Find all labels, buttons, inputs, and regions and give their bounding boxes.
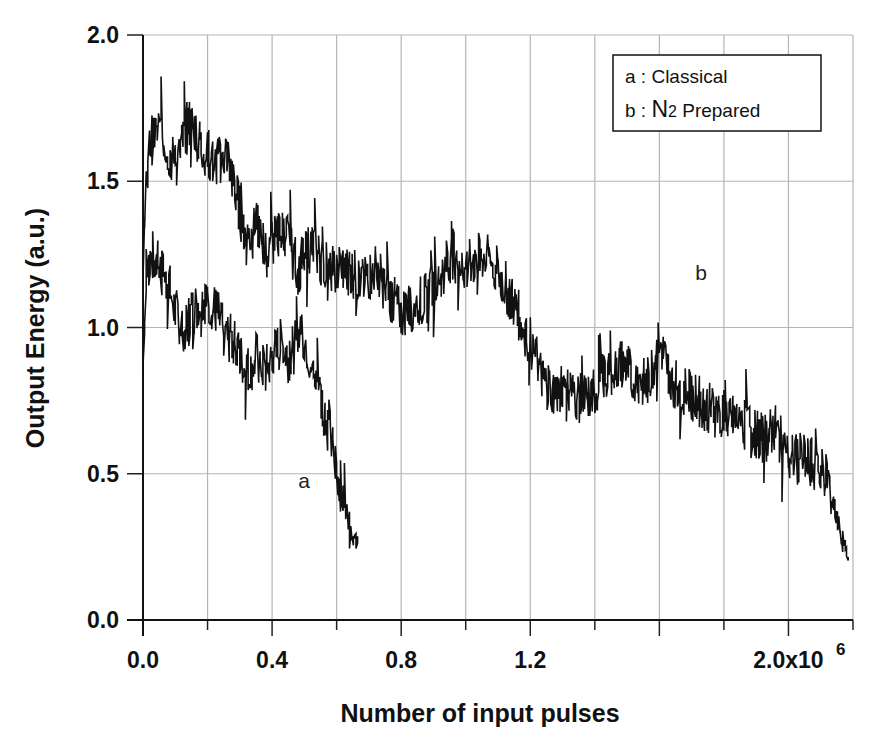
y-tick-label: 0.0 — [87, 607, 119, 633]
x-axis-title: Number of input pulses — [340, 699, 619, 727]
legend-item-a: a : Classical — [625, 66, 727, 87]
curve-label-b: b — [695, 261, 707, 284]
y-tick-label: 1.0 — [87, 315, 119, 341]
y-tick-label: 2.0 — [87, 22, 119, 48]
x-tick-label: 0.0 — [127, 647, 159, 673]
y-axis-title: Output Energy (a.u.) — [21, 208, 49, 448]
legend: a : Classical b : N2 Prepared — [613, 55, 821, 131]
x-tick-label: 0.8 — [385, 647, 417, 673]
legend-item-b: b : N2 Prepared — [625, 96, 760, 122]
y-tick-label: 1.5 — [87, 168, 119, 194]
y-tick-label: 0.5 — [87, 461, 119, 487]
chart: 0.00.40.81.22.0x100.00.51.01.52.0 Output… — [0, 0, 877, 747]
x-multiplier-exponent: 6 — [836, 640, 845, 659]
x-tick-label: 2.0x10 — [753, 647, 823, 673]
curve-label-a: a — [298, 469, 310, 492]
x-tick-label: 1.2 — [514, 647, 546, 673]
x-tick-label: 0.4 — [256, 647, 288, 673]
